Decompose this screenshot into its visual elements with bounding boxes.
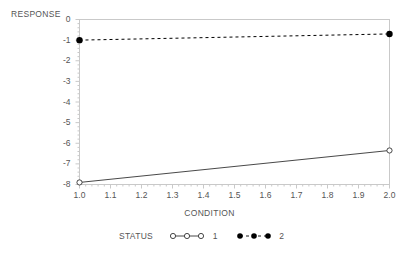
x-tick-label: 1.4	[189, 190, 219, 200]
data-point	[77, 180, 82, 185]
x-tick-label: 1.2	[127, 190, 157, 200]
y-tick-label: -3	[47, 77, 71, 85]
x-tick-label: 1.3	[158, 190, 188, 200]
y-tick-label: 0	[47, 15, 71, 23]
filled-circle-key-icon	[236, 231, 272, 241]
y-tick-label: -1	[47, 36, 71, 44]
legend-entry-2[interactable]: 2	[236, 230, 284, 241]
legend-label: 2	[279, 231, 284, 241]
y-tick-label: -7	[47, 159, 71, 167]
legend-label: 1	[213, 231, 218, 241]
y-tick-label: -8	[47, 180, 71, 188]
x-axis-title: CONDITION	[0, 208, 419, 218]
legend-entry-1[interactable]: 1	[169, 230, 217, 241]
data-point	[386, 31, 392, 37]
y-tick-label: -2	[47, 56, 71, 64]
x-tick-label: 1.1	[96, 190, 126, 200]
series-2	[76, 31, 392, 44]
x-tick-label: 1.5	[220, 190, 250, 200]
y-tick-label: -5	[47, 118, 71, 126]
x-tick-label: 1.6	[251, 190, 281, 200]
open-circle-key-icon	[169, 231, 205, 241]
y-tick-label: -4	[47, 98, 71, 106]
x-tick-label: 1.7	[282, 190, 312, 200]
y-axis-ticks	[76, 20, 80, 185]
data-point	[387, 148, 392, 153]
legend-title: STATUS	[119, 231, 153, 241]
data-series-layer	[76, 31, 392, 185]
x-tick-label: 1.0	[65, 190, 95, 200]
series-1	[77, 148, 392, 185]
legend: STATUS 1	[0, 230, 419, 241]
x-tick-label: 2.0	[375, 190, 405, 200]
x-tick-label: 1.9	[344, 190, 374, 200]
interaction-plot: RESPONSE 0-1-2-3-4-5-6-7-8 1.01.11.21.31…	[0, 0, 419, 255]
x-axis-ticks	[80, 185, 390, 189]
y-tick-label: -6	[47, 139, 71, 147]
x-tick-label: 1.8	[313, 190, 343, 200]
data-point	[76, 37, 82, 43]
